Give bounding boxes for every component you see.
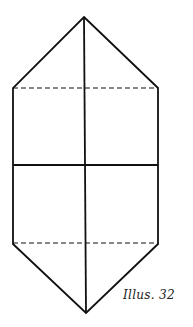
- fold-diagram: [0, 0, 193, 327]
- illustration-caption: Illus. 32: [123, 288, 175, 302]
